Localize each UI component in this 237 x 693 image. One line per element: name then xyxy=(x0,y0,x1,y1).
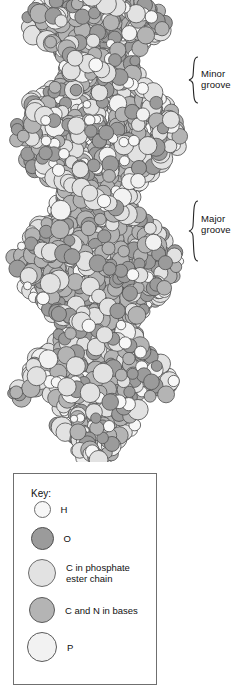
key-swatch-p-icon xyxy=(27,632,57,662)
key-item-o: O xyxy=(27,527,71,550)
key-label-p: P xyxy=(67,642,73,653)
key-label-h: H xyxy=(61,504,68,515)
minor-groove-label: Minor groove xyxy=(201,68,231,90)
key-label-c-phosphate: C in phosphate ester chain xyxy=(66,562,130,584)
key-swatch-h-icon xyxy=(34,501,51,518)
major-groove-label: Major groove xyxy=(201,213,231,235)
key-title: Key: xyxy=(31,488,51,499)
key-swatch-c-n-bases-icon xyxy=(29,597,55,623)
key-item-c-phosphate: C in phosphate ester chain xyxy=(27,559,130,587)
key-item-h: H xyxy=(27,501,67,518)
major-groove-brace xyxy=(188,200,200,262)
key-item-p: P xyxy=(27,632,73,662)
minor-groove-brace xyxy=(188,56,200,104)
key-swatch-c-phosphate-icon xyxy=(28,559,56,587)
key-item-c-n-bases: C and N in bases xyxy=(27,597,138,623)
key-label-c-n-bases: C and N in bases xyxy=(65,605,138,616)
key-swatch-o-icon xyxy=(31,527,54,550)
key-legend-box: Key: HOC in phosphate ester chainC and N… xyxy=(13,473,157,685)
key-label-o: O xyxy=(64,533,71,544)
